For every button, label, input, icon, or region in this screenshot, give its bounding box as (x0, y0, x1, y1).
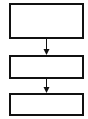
connector-arrows (0, 0, 88, 119)
arrow-icon-2 (44, 79, 50, 93)
arrow-icon-1 (44, 39, 50, 55)
